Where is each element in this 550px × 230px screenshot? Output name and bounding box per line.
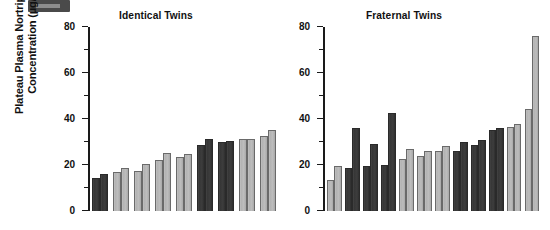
bar-group-identical-twins <box>92 27 276 211</box>
bar-pair <box>239 139 255 211</box>
bar-pair <box>525 36 540 211</box>
bar-twin-a <box>363 166 370 211</box>
bar-pair <box>381 113 396 211</box>
y-tick-major: 20 <box>82 164 88 166</box>
y-axis-line <box>323 27 325 211</box>
bar-twin-b <box>163 153 171 211</box>
plot-area-fraternal-twins: 020406080 <box>323 27 545 211</box>
y-tick-major: 40 <box>317 118 323 120</box>
bar-pair <box>363 144 378 211</box>
bar-twin-b <box>460 142 467 211</box>
bar-twin-b <box>496 128 503 211</box>
bar-twin-b <box>100 174 108 211</box>
bar-pair <box>92 174 108 211</box>
bar-twin-b <box>532 36 539 211</box>
bar-twin-a <box>197 145 205 211</box>
bar-twin-b <box>247 139 255 211</box>
bar-twin-a <box>345 168 352 211</box>
bar-pair <box>218 141 234 211</box>
bar-pair <box>176 154 192 211</box>
y-tick-label: 40 <box>299 112 310 123</box>
y-tick-major: 60 <box>82 72 88 74</box>
bar-twin-a <box>218 142 226 211</box>
y-tick-label: 20 <box>64 158 75 169</box>
bar-twin-b <box>184 154 192 211</box>
y-tick-major: 40 <box>82 118 88 120</box>
y-tick-major: 80 <box>317 26 323 28</box>
bar-pair <box>134 164 150 211</box>
y-tick-label: 40 <box>64 112 75 123</box>
bar-twin-b <box>406 149 413 211</box>
bar-twin-a <box>525 109 532 211</box>
bar-pair <box>417 151 432 211</box>
bar-twin-a <box>327 180 334 211</box>
bar-twin-b <box>268 130 276 211</box>
bar-twin-a <box>239 139 247 211</box>
y-tick-label: 80 <box>299 20 310 31</box>
bar-pair <box>471 140 486 211</box>
y-tick-minor <box>84 49 89 50</box>
bar-pair <box>453 142 468 211</box>
panel-fraternal-twins: Fraternal Twins 020406080 <box>295 0 550 230</box>
bar-twin-b <box>205 139 213 211</box>
y-axis-label-line-2: Concentration (µg/L) <box>26 0 39 131</box>
bar-pair <box>399 149 414 211</box>
bar-pair <box>197 139 213 211</box>
y-tick-minor <box>319 49 324 50</box>
bar-twin-a <box>417 156 424 211</box>
bar-pair <box>155 153 171 211</box>
twin-study-bar-chart-figure: Plateau Plasma Nortriptyline Concentrati… <box>0 0 550 230</box>
bar-twin-a <box>507 127 514 211</box>
bar-pair <box>345 128 360 211</box>
bar-twin-b <box>334 166 341 211</box>
bar-twin-b <box>478 140 485 211</box>
bar-twin-b <box>226 141 234 211</box>
bar-twin-a <box>113 172 121 211</box>
y-tick-minor <box>84 187 89 188</box>
y-axis-line <box>88 27 90 211</box>
bar-twin-a <box>399 159 406 211</box>
y-tick-major: 80 <box>82 26 88 28</box>
bar-pair <box>435 146 450 211</box>
bar-pair <box>489 128 504 211</box>
bar-twin-b <box>142 164 150 211</box>
bar-twin-a <box>176 157 184 211</box>
bar-pair <box>113 168 129 211</box>
bar-group-fraternal-twins <box>327 27 539 211</box>
panel-title-identical-twins: Identical Twins <box>56 10 256 21</box>
bar-twin-a <box>489 130 496 211</box>
y-tick-minor <box>84 141 89 142</box>
bar-pair <box>260 130 276 211</box>
y-tick-major: 20 <box>317 164 323 166</box>
bar-pair <box>327 166 342 211</box>
panel-title-fraternal-twins: Fraternal Twins <box>289 10 519 21</box>
bar-twin-b <box>388 113 395 211</box>
y-tick-minor <box>319 141 324 142</box>
bar-twin-b <box>514 124 521 211</box>
y-axis-label: Plateau Plasma Nortriptyline Concentrati… <box>13 0 39 131</box>
bar-twin-a <box>92 178 100 211</box>
bar-pair <box>507 124 522 211</box>
panel-identical-twins: Identical Twins 020406080 <box>60 0 270 230</box>
bar-twin-b <box>370 144 377 211</box>
plot-area-identical-twins: 020406080 <box>88 27 263 211</box>
bar-twin-a <box>134 171 142 211</box>
y-tick-major: 0 <box>82 210 88 212</box>
bar-twin-a <box>155 160 163 211</box>
y-tick-major: 60 <box>317 72 323 74</box>
y-tick-label: 0 <box>69 204 75 215</box>
bar-twin-b <box>442 146 449 211</box>
y-tick-label: 0 <box>304 204 310 215</box>
bar-twin-a <box>435 151 442 211</box>
y-tick-minor <box>319 187 324 188</box>
y-tick-minor <box>84 95 89 96</box>
y-tick-label: 60 <box>64 66 75 77</box>
bar-twin-a <box>453 151 460 211</box>
y-axis-label-line-1: Plateau Plasma Nortriptyline <box>13 0 25 114</box>
y-tick-label: 20 <box>299 158 310 169</box>
y-tick-major: 0 <box>317 210 323 212</box>
bar-twin-a <box>471 145 478 211</box>
bar-twin-b <box>121 168 129 211</box>
y-tick-label: 80 <box>64 20 75 31</box>
bar-twin-a <box>260 136 268 211</box>
